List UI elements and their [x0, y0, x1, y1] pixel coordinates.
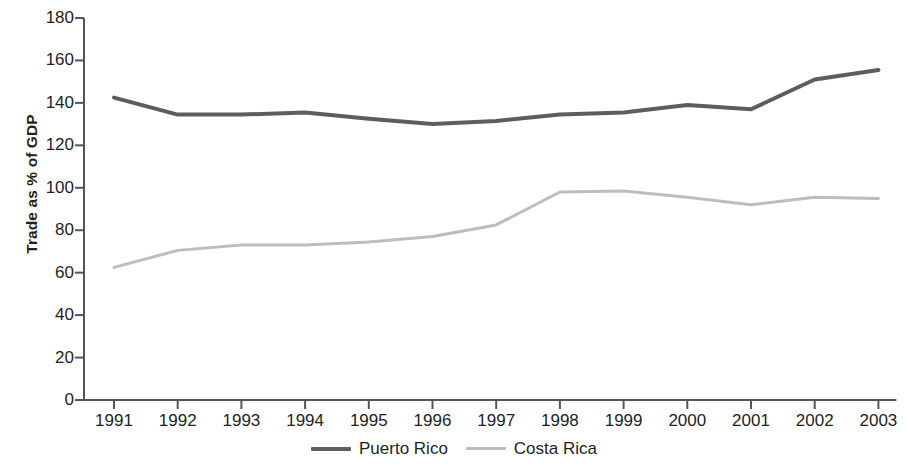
legend-label: Costa Rica [514, 440, 597, 457]
plot-area [0, 0, 908, 465]
x-axis-tick-label: 1995 [339, 412, 399, 429]
legend-item[interactable]: Puerto Rico [311, 440, 448, 457]
x-axis-tick-label: 1993 [211, 412, 271, 429]
x-axis-tick-label: 2001 [721, 412, 781, 429]
chart-axes [75, 18, 896, 409]
legend-swatch-icon [311, 447, 351, 451]
x-axis-tick-label: 2003 [848, 412, 908, 429]
x-axis-tick-label: 1992 [148, 412, 208, 429]
x-axis-tick-label: 1994 [275, 412, 335, 429]
legend-item[interactable]: Costa Rica [466, 440, 597, 457]
line-chart: Trade as % of GDP 0204060801001201401601… [0, 0, 908, 465]
chart-legend: Puerto RicoCosta Rica [0, 440, 908, 457]
legend-swatch-icon [466, 447, 506, 450]
legend-label: Puerto Rico [359, 440, 448, 457]
x-axis-tick-label: 1998 [530, 412, 590, 429]
series-line-costa-rica [114, 191, 878, 267]
x-axis-tick-label: 1996 [403, 412, 463, 429]
x-axis-tick-label: 1991 [84, 412, 144, 429]
series-line-puerto-rico [114, 70, 878, 124]
x-axis-tick-label: 1999 [594, 412, 654, 429]
x-axis-tick-label: 2000 [657, 412, 717, 429]
chart-series [114, 70, 878, 267]
x-axis-tick-label: 1997 [466, 412, 526, 429]
x-axis-tick-label: 2002 [785, 412, 845, 429]
